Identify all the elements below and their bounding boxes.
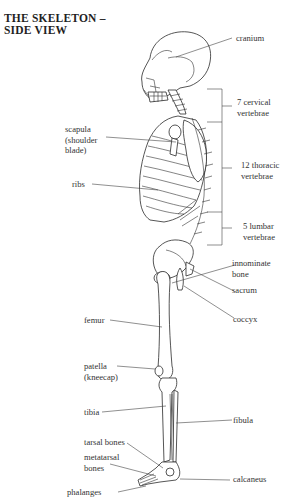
cervical-vertebrae: [168, 90, 187, 114]
label-thoracic-line-1: 12 thoracic: [241, 160, 279, 171]
label-ribs: ribs: [72, 179, 85, 190]
fibula-leader: [176, 420, 232, 423]
label-tibia: tibia: [84, 407, 99, 418]
lower-leg: [159, 378, 178, 462]
label-coccyx: coccyx: [233, 314, 257, 325]
label-phalanges: phalanges: [67, 487, 101, 498]
label-femur: femur: [84, 315, 105, 326]
label-calcaneus: calcaneus: [233, 474, 266, 485]
label-innominate-bone: innominate bone: [232, 258, 271, 279]
label-patella: patella (kneecap): [84, 361, 118, 382]
phalanges-leader: [118, 486, 146, 492]
label-scapula-line-2: (shoulder: [65, 135, 97, 146]
label-tarsal-bones: tarsal bones: [84, 437, 125, 448]
femur: [157, 271, 173, 380]
label-scapula-line-3: blade): [65, 145, 97, 156]
calcaneus-leader: [180, 479, 230, 480]
label-lumbar-line-1: 5 lumbar: [243, 221, 275, 232]
tibia-leader: [102, 406, 166, 412]
label-patella-line-1: patella: [84, 361, 118, 372]
patella: [155, 366, 163, 376]
tarsal-leader: [127, 443, 163, 468]
label-cervical-line-1: 7 cervical: [237, 97, 271, 108]
label-sacrum: sacrum: [232, 285, 257, 296]
coccyx-leader: [184, 286, 234, 318]
label-metatarsal-bones: metatarsal bones: [84, 452, 119, 473]
label-thoracic-vertebrae: 12 thoracic vertebrae: [241, 160, 279, 181]
label-fibula: fibula: [233, 415, 253, 426]
label-lumbar-vertebrae: 5 lumbar vertebrae: [243, 221, 275, 242]
label-cervical-vertebrae: 7 cervical vertebrae: [237, 97, 271, 118]
label-lumbar-line-2: vertebrae: [243, 232, 275, 243]
label-cranium: cranium: [236, 33, 264, 44]
label-innominate-line-1: innominate: [232, 258, 271, 269]
femur-leader: [110, 320, 162, 327]
patella-leader: [117, 366, 155, 369]
label-innominate-line-2: bone: [232, 269, 271, 280]
label-metatarsal-line-2: bones: [84, 463, 119, 474]
label-patella-line-2: (kneecap): [84, 372, 118, 383]
label-thoracic-line-2: vertebrae: [241, 171, 279, 182]
foot: [138, 462, 180, 486]
label-scapula-line-1: scapula: [65, 124, 97, 135]
label-metatarsal-line-1: metatarsal: [84, 452, 119, 463]
label-scapula: scapula (shoulder blade): [65, 124, 97, 156]
vertebrae-bracket: [207, 89, 232, 245]
label-cervical-line-2: vertebrae: [237, 108, 271, 119]
sacrum-leader: [190, 269, 234, 291]
